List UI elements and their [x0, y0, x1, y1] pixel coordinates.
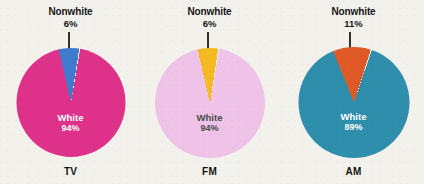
- chart-panel-fm: Nonwhite 6% White 94% FM: [139, 0, 280, 184]
- callout-value-tv: 6%: [0, 18, 141, 30]
- callout-label-am: Nonwhite 11%: [283, 6, 424, 30]
- callout-label-fm: Nonwhite 6%: [139, 6, 280, 30]
- chart-panel-am: Nonwhite 11% White 89% AM: [283, 0, 424, 184]
- callout-value-am: 11%: [283, 18, 424, 30]
- pie-wrap-tv: White 94%: [16, 48, 125, 157]
- pie-tv: [16, 48, 125, 157]
- pie-fm: [155, 48, 265, 158]
- category-label-fm: FM: [139, 166, 280, 177]
- pie-chart-figure: Nonwhite 6% White 94% TV Nonwhite 6% Whi…: [0, 0, 424, 184]
- callout-label-tv: Nonwhite 6%: [0, 6, 141, 30]
- category-label-tv: TV: [0, 166, 141, 177]
- callout-name-am: Nonwhite: [283, 6, 424, 18]
- category-label-am: AM: [283, 166, 424, 177]
- callout-name-tv: Nonwhite: [0, 6, 141, 18]
- chart-panel-tv: Nonwhite 6% White 94% TV: [0, 0, 141, 184]
- pie-wrap-fm: White 94%: [155, 48, 265, 158]
- callout-name-fm: Nonwhite: [139, 6, 280, 18]
- pie-wrap-am: White 89%: [298, 47, 409, 158]
- pie-am: [298, 47, 409, 158]
- callout-value-fm: 6%: [139, 18, 280, 30]
